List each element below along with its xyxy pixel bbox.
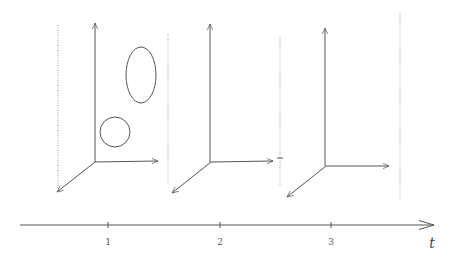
frame-2-depth-axis	[172, 162, 211, 193]
diagram-canvas: 1 2 3 t	[0, 0, 456, 259]
circle-shape	[100, 117, 130, 147]
tick-label-2: 2	[217, 237, 223, 247]
frame-3	[287, 28, 389, 197]
frame-3-depth-axis	[287, 166, 326, 197]
tick-label-3: 3	[328, 237, 334, 247]
ellipse-shape	[126, 47, 156, 103]
time-axis: 1 2 3 t	[20, 222, 435, 251]
frame-1-horizontal-axis	[95, 161, 158, 162]
frame-2	[172, 24, 273, 193]
time-axis-label: t	[429, 235, 435, 251]
frame-1-depth-axis	[57, 162, 95, 192]
frame-2-horizontal-axis	[211, 161, 273, 162]
frame-1	[57, 23, 158, 192]
tick-label-1: 1	[105, 237, 111, 247]
